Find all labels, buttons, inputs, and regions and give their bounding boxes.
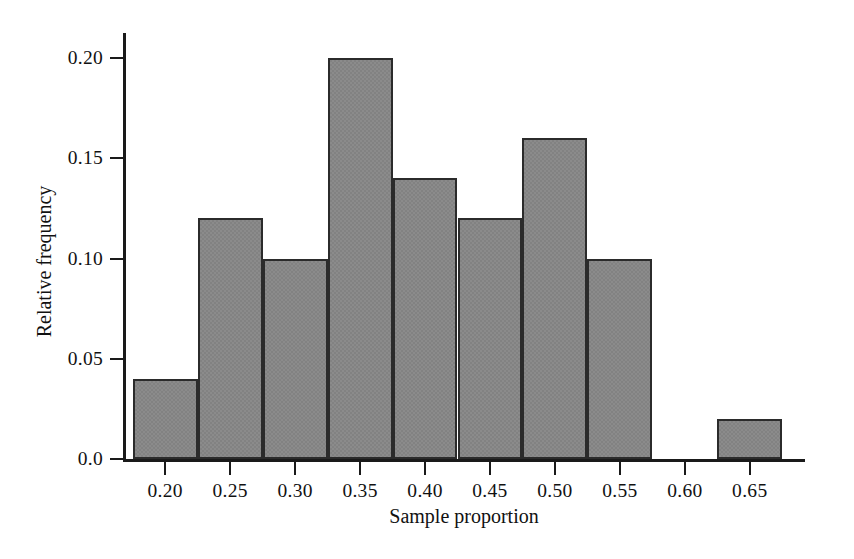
histogram-bar (587, 259, 652, 459)
x-axis-tick-label: 0.65 (732, 480, 767, 502)
x-axis-tick (294, 462, 296, 475)
y-axis-tick-label: 0.15 (68, 147, 103, 169)
x-axis-tick (749, 462, 751, 475)
histogram-bar (263, 259, 328, 459)
histogram-bar (328, 58, 393, 459)
y-axis-title: Relative frequency (33, 152, 56, 372)
x-axis-tick-label: 0.20 (148, 480, 183, 502)
x-axis-tick (619, 462, 621, 475)
x-axis-tick (489, 462, 491, 475)
histogram-bar (522, 138, 587, 459)
y-axis-tick (110, 57, 123, 59)
histogram-bar (393, 178, 458, 459)
x-axis-tick (164, 462, 166, 475)
x-axis-tick-label: 0.30 (277, 480, 312, 502)
y-axis-tick (110, 258, 123, 260)
y-axis-tick-label: 0.0 (78, 448, 103, 470)
x-axis-tick-label: 0.55 (602, 480, 637, 502)
histogram-bar (458, 218, 523, 459)
x-axis-tick (424, 462, 426, 475)
x-axis-tick (229, 462, 231, 475)
x-axis-tick (684, 462, 686, 475)
x-axis-tick (359, 462, 361, 475)
x-axis-tick (554, 462, 556, 475)
histogram-bar (198, 218, 263, 459)
histogram-figure: 0.00.050.100.150.20 0.200.250.300.350.40… (0, 0, 854, 559)
x-axis-tick-label: 0.60 (667, 480, 702, 502)
y-axis-tick (110, 358, 123, 360)
y-axis-tick-label: 0.20 (68, 47, 103, 69)
histogram-bar (717, 419, 782, 459)
plot-area: 0.00.050.100.150.20 0.200.250.300.350.40… (123, 33, 805, 459)
y-axis-tick (110, 157, 123, 159)
x-axis-line (123, 459, 805, 462)
y-axis-tick-label: 0.10 (68, 248, 103, 270)
x-axis-title: Sample proportion (123, 505, 805, 528)
x-axis-tick-label: 0.40 (407, 480, 442, 502)
x-axis-tick-label: 0.35 (342, 480, 377, 502)
x-axis-tick-label: 0.25 (212, 480, 247, 502)
y-axis-line (123, 33, 126, 459)
x-axis-tick-label: 0.50 (537, 480, 572, 502)
x-axis-tick-label: 0.45 (472, 480, 507, 502)
histogram-bar (133, 379, 198, 459)
y-axis-tick (110, 458, 123, 460)
y-axis-tick-label: 0.05 (68, 348, 103, 370)
